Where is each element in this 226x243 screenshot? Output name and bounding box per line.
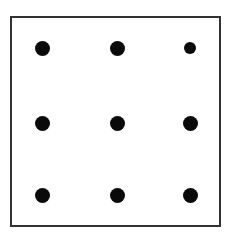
dot-r2-c2 [183, 188, 198, 203]
dot-r1-c2 [183, 116, 198, 131]
dot-r0-c1 [110, 41, 125, 56]
dot-r0-c0 [35, 41, 50, 56]
dot-r0-c2 [184, 42, 196, 54]
dot-r2-c1 [110, 188, 125, 203]
dot-r1-c1 [110, 116, 125, 131]
dot-r2-c0 [35, 188, 50, 203]
dot-r1-c0 [35, 116, 50, 131]
